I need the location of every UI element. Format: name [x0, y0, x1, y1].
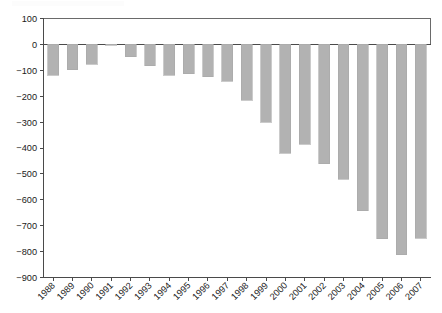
bar[interactable]: 1996: -125: [203, 44, 214, 76]
y-tick-label: 0: [32, 40, 37, 50]
x-tick-label: 2007: [403, 280, 425, 302]
bar[interactable]: 1999: -300: [261, 44, 272, 122]
chart-plot-area: 1000−100−200−300−400−500−600−700−800−900…: [0, 0, 442, 313]
x-tick-label: 1997: [210, 280, 232, 302]
y-tick-label: −600: [16, 195, 37, 205]
y-tick-label: −100: [16, 66, 37, 76]
bar[interactable]: 1998: -215: [241, 44, 252, 100]
x-axis-ticks: 1988198919901991199219931994199519961997…: [36, 278, 425, 302]
bar[interactable]: 1997: -142: [222, 44, 233, 81]
y-tick-label: −300: [16, 118, 37, 128]
y-tick-label: −400: [16, 143, 37, 153]
x-tick-label: 2006: [384, 280, 406, 302]
x-tick-label: 1991: [94, 280, 116, 302]
x-tick-label: 2002: [306, 280, 328, 302]
bar[interactable]: 1991: -3: [106, 44, 117, 45]
y-tick-label: −200: [16, 92, 37, 102]
bar[interactable]: 1992: -47: [125, 44, 136, 56]
x-tick-label: 1992: [113, 280, 135, 302]
y-tick-label: −700: [16, 221, 37, 231]
bar[interactable]: 2002: -460: [319, 44, 330, 163]
x-tick-label: 1989: [55, 280, 77, 302]
bar[interactable]: 2003: -520: [338, 44, 349, 179]
bar[interactable]: 2006: -812: [396, 44, 407, 254]
bar[interactable]: 2004: -642: [357, 44, 368, 210]
bar[interactable]: 1995: -113: [183, 44, 194, 73]
y-tick-label: 100: [22, 14, 37, 24]
bar[interactable]: 1990: -77: [86, 44, 97, 64]
y-axis-ticks: 1000−100−200−300−400−500−600−700−800−900: [16, 14, 43, 283]
x-tick-label: 1988: [36, 280, 58, 302]
x-tick-label: 1990: [74, 280, 96, 302]
x-tick-label: 2004: [345, 280, 367, 302]
x-tick-label: 1998: [229, 280, 251, 302]
bar[interactable]: 2000: -420: [280, 44, 291, 153]
x-tick-label: 2005: [365, 280, 387, 302]
x-tick-label: 1993: [132, 280, 154, 302]
y-tick-label: −500: [16, 169, 37, 179]
x-tick-label: 1994: [152, 280, 174, 302]
x-tick-label: 2000: [268, 280, 290, 302]
bar[interactable]: 2001: -385: [299, 44, 310, 144]
bar-chart: 1000−100−200−300−400−500−600−700−800−900…: [0, 0, 442, 313]
bar[interactable]: 1988: -120: [48, 44, 59, 75]
y-tick-label: −800: [16, 247, 37, 257]
y-tick-label: −900: [16, 273, 37, 283]
x-tick-label: 2001: [287, 280, 309, 302]
x-tick-label: 1999: [248, 280, 270, 302]
x-tick-label: 2003: [326, 280, 348, 302]
x-tick-label: 1996: [190, 280, 212, 302]
bar-series: 1988: -1201989: -981990: -771991: -31992…: [48, 44, 426, 254]
x-tick-label: 1995: [171, 280, 193, 302]
bar[interactable]: 1993: -82: [145, 44, 156, 65]
plot-frame: [44, 19, 431, 45]
bar[interactable]: 1989: -98: [67, 44, 78, 69]
bar[interactable]: 2007: -748: [415, 44, 426, 238]
bar[interactable]: 1994: -120: [164, 44, 175, 75]
bar[interactable]: 2005: -750: [377, 44, 388, 238]
